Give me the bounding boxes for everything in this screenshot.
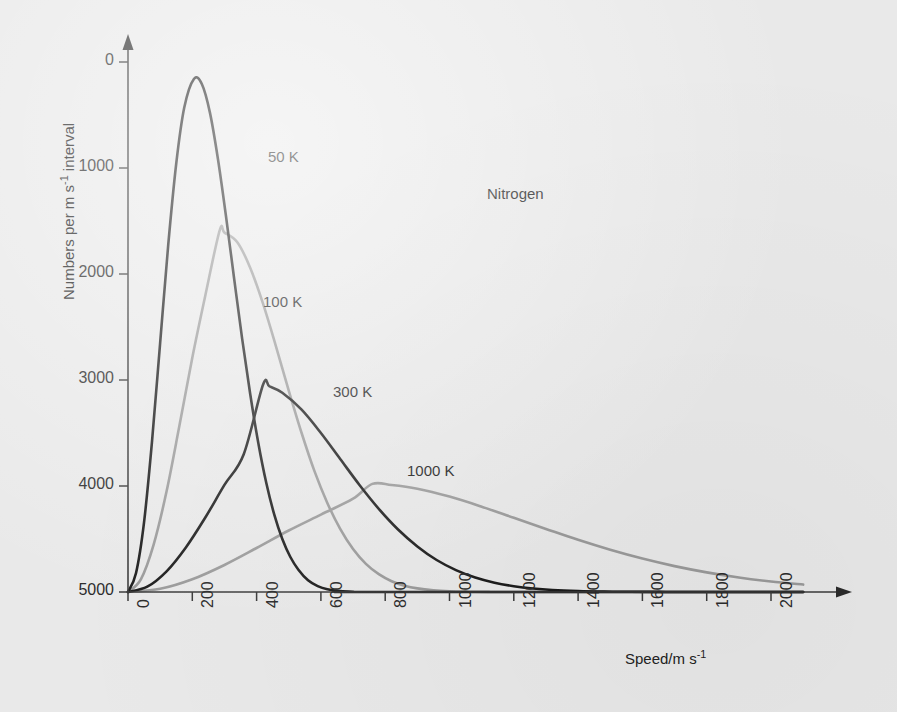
x-tick-label-1200: 1200 [521,572,539,608]
x-tick-label-1600: 1600 [649,572,667,608]
x-tick-label-400: 400 [264,581,282,608]
x-axis-title-main: Speed/m s [625,650,697,667]
x-axis-title: Speed/m s-1 [625,648,706,667]
chart-figure: Numbers per m s-1 interval Speed/m s-1 N… [0,0,897,712]
x-tick-marks [128,592,771,601]
x-tick-label-1800: 1800 [714,572,732,608]
y-axis-title-tail: interval [60,123,77,176]
series-label-100-k: 100 K [263,293,302,310]
series-label-1000-k: 1000 K [407,462,455,479]
x-tick-label-1000: 1000 [457,572,475,608]
y-tick-label-5000: 0 [105,51,114,69]
x-axis-arrowhead [836,587,852,598]
y-axis-title: Numbers per m s-1 interval [58,123,77,300]
y-tick-marks [119,62,128,592]
x-tick-label-800: 800 [392,581,410,608]
curve-100-k [128,226,803,592]
y-tick-label-0: 5000 [78,581,114,599]
series-label-300-k: 300 K [333,383,372,400]
y-tick-label-3000: 2000 [78,263,114,281]
y-tick-label-4000: 1000 [78,157,114,175]
curve-group [128,77,803,592]
y-axis-arrowhead [123,34,134,50]
y-axis-title-exponent: -1 [58,175,70,185]
x-tick-label-200: 200 [199,581,217,608]
x-tick-label-0: 0 [135,599,153,608]
axes-group [119,34,852,601]
y-axis-title-main: Numbers per m s [60,185,77,300]
x-axis-title-exponent: -1 [697,648,707,660]
y-tick-label-2000: 3000 [78,369,114,387]
x-tick-label-1400: 1400 [585,572,603,608]
curve-300-k [128,380,803,592]
x-tick-label-600: 600 [328,581,346,608]
x-tick-label-2000: 2000 [778,572,796,608]
y-tick-label-1000: 4000 [78,475,114,493]
curve-50-k [128,77,803,592]
series-label-50-k: 50 K [268,148,299,165]
gas-annotation: Nitrogen [487,185,544,202]
